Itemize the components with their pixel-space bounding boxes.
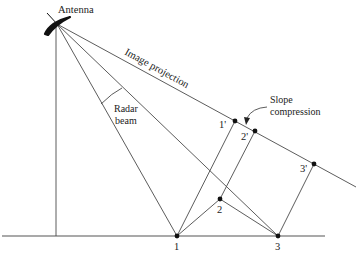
antenna-label: Antenna <box>58 4 94 15</box>
point-2 <box>218 197 223 202</box>
point-2-prime <box>253 129 258 134</box>
point-1 <box>175 234 180 239</box>
radar-beam-label-line2: beam <box>115 115 137 126</box>
point-2-label: 2 <box>217 204 222 215</box>
slope-compression-label-line1: Slope <box>270 94 293 105</box>
projection-3-to-3p <box>278 164 314 236</box>
radar-beam-arc <box>101 88 122 104</box>
radar-beam-label-line1: Radar <box>114 103 139 114</box>
point-3-prime-label: 3' <box>300 163 307 174</box>
point-3-prime <box>312 162 317 167</box>
antenna-icon <box>45 13 70 35</box>
projection-1-to-1p <box>177 121 235 236</box>
point-1-label: 1 <box>174 241 179 252</box>
point-3 <box>276 234 281 239</box>
radar-slope-compression-diagram: Antenna Image projection Radar beam Slop… <box>0 0 360 259</box>
point-1-prime-label: 1' <box>219 119 226 130</box>
point-1-prime <box>233 119 238 124</box>
slope-2-3 <box>220 199 278 236</box>
ray-to-point-1 <box>57 24 177 236</box>
slope-compression-arrow <box>244 107 267 125</box>
point-3-label: 3 <box>275 241 280 252</box>
ray-to-point-3 <box>57 24 278 236</box>
image-projection-label: Image projection <box>123 46 192 90</box>
slope-compression-label-line2: compression <box>270 106 321 117</box>
point-2-prime-label: 2' <box>241 131 248 142</box>
slope-1-2 <box>177 199 220 236</box>
